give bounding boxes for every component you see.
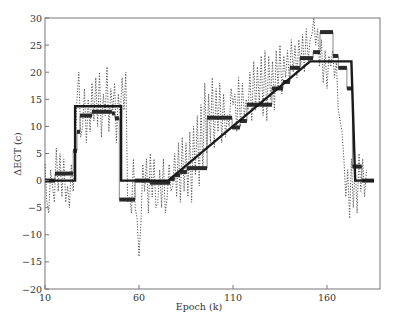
step-estimate-segment [207, 116, 232, 120]
plot-frame [45, 18, 380, 289]
step-estimate-segment [55, 172, 73, 176]
y-tick-label: 0 [36, 175, 42, 186]
step-estimate-segment [313, 50, 320, 54]
x-tick-label: 110 [224, 292, 242, 303]
y-tick-label: −5 [28, 202, 42, 213]
step-estimate-segment [77, 130, 80, 134]
step-estimate-segment [80, 114, 92, 118]
step-estimate-segment [115, 116, 119, 120]
y-tick-label: −15 [22, 256, 42, 267]
chart-canvas: −20−15−10−5051015202530 1060110160 Epoch… [0, 0, 398, 330]
step-estimate-segment [290, 66, 300, 70]
y-tick-label: 20 [30, 67, 42, 78]
step-estimate-segment [300, 56, 313, 60]
x-axis-label: Epoch (k) [176, 301, 222, 312]
step-estimate-segment [333, 54, 338, 58]
y-tick-label: 10 [30, 121, 42, 132]
x-tick-label: 10 [39, 292, 51, 303]
y-tick-label: 30 [30, 13, 42, 24]
step-estimate-segment [338, 66, 347, 70]
x-tick-label: 60 [133, 292, 145, 303]
step-estimate-segment [112, 111, 115, 115]
y-tick-label: 25 [30, 40, 42, 51]
y-tick-label: −10 [22, 229, 42, 240]
y-tick-label: 5 [36, 148, 42, 159]
step-estimate-segment [320, 30, 333, 34]
y-axis-label: ΔEGT (c) [12, 132, 23, 175]
y-tick-label: 15 [30, 94, 42, 105]
step-estimate-segment [92, 110, 112, 114]
plot-area [45, 18, 380, 289]
x-tick-label: 160 [318, 292, 336, 303]
step-estimate-segment [187, 166, 207, 170]
step-estimate-segment [119, 198, 135, 202]
